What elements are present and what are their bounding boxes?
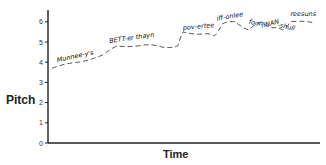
annotation-word: Munnee-y's <box>56 48 95 64</box>
y-ticks: 0123456 <box>39 18 48 146</box>
y-tick-label: 1 <box>39 119 43 126</box>
y-tick-label: 5 <box>39 39 43 46</box>
annotation-word: iff-onlee <box>216 10 244 23</box>
pitch-chart: 0123456 Munnee-y'sBETT-er thaynpov-ertee… <box>0 0 326 165</box>
annotation-word: reesuns <box>290 10 316 18</box>
y-tick-label: 0 <box>39 140 43 147</box>
y-tick-label: 3 <box>39 79 43 86</box>
annotation-word: BETT-er thayn <box>109 31 155 45</box>
y-tick-label: 2 <box>39 99 43 106</box>
y-tick-label: 6 <box>39 18 43 25</box>
annotations: Munnee-y'sBETT-er thaynpov-erteeiff-onle… <box>56 10 317 64</box>
annotation-word: -shull <box>277 21 296 33</box>
annotation-word: pov-ertee <box>181 21 214 32</box>
y-tick-label: 4 <box>39 59 43 66</box>
